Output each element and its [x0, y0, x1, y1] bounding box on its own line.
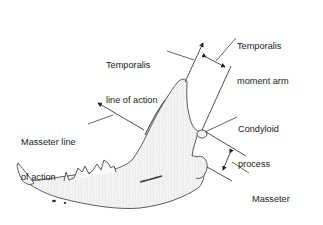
- label-condyloid-process: Condyloid process: [238, 101, 279, 182]
- label-temporalis-moment-arm: Temporalis moment arm: [237, 18, 289, 99]
- label-line: moment arm: [237, 76, 289, 88]
- leader-temporalis-moment-arm: [216, 38, 236, 61]
- leader-condyloid-process: [205, 117, 237, 132]
- leader-temporalis-line-of-action: [167, 51, 194, 60]
- label-line: Masseter line: [21, 137, 76, 149]
- condyloid-process-shape: [197, 130, 207, 138]
- label-line: process: [238, 159, 279, 171]
- label-line: line of action: [106, 95, 158, 107]
- masseter-moment-arm-reference-line-lower: [207, 167, 232, 181]
- label-line: Masseter: [252, 194, 304, 206]
- label-masseter-line-of-action: Masseter line of action: [21, 114, 76, 195]
- label-temporalis-line-of-action: Temporalis line of action: [106, 37, 158, 118]
- label-line: Temporalis: [237, 41, 289, 53]
- foramen: [64, 202, 67, 204]
- masseter-moment-arm-arrow: [223, 153, 230, 170]
- label-masseter-moment-arm: Masseter moment arm: [252, 171, 304, 225]
- temporalis-line-of-action-arrow: [185, 43, 203, 82]
- temporalis-moment-arm-arrow: [206, 57, 225, 67]
- angular-process: [196, 156, 207, 178]
- label-line: Temporalis: [106, 60, 158, 72]
- temporalis-moment-arm-reference-line: [202, 66, 231, 130]
- foramen: [52, 200, 56, 202]
- label-line: of action: [21, 172, 76, 184]
- label-line: Condyloid: [238, 124, 279, 136]
